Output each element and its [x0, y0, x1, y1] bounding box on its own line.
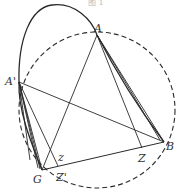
segment-Aprime-G-3 [19, 82, 38, 168]
label-Z: Z [137, 152, 146, 165]
solid-curve [19, 5, 164, 170]
figure-caption-fragment: 图 1 [88, 0, 104, 7]
label-A: A [93, 22, 102, 35]
label-z: z [57, 151, 64, 164]
dashed-circle [19, 32, 175, 188]
segment-A-Z [97, 35, 142, 148]
label-G: G [33, 173, 42, 186]
label-A-prime: A' [4, 75, 16, 88]
label-Z-prime: Z' [55, 171, 67, 184]
label-B: B [165, 140, 174, 153]
segment-A-B-2 [97, 35, 160, 140]
geometry-diagram: 图 1 A A' G B Z Z' z [0, 0, 183, 189]
